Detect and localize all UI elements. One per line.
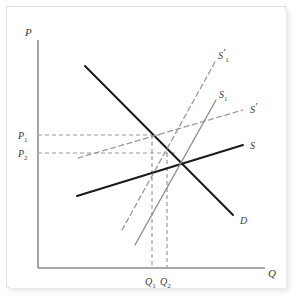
chart-labels-group: P1P2Q1Q2DSS′S1S′1	[17, 47, 258, 290]
curve-label-supply-prime-1: S′1	[218, 47, 229, 64]
x-axis-label: Q	[268, 267, 276, 279]
curve-supply-1	[135, 100, 216, 245]
curve-demand	[85, 66, 233, 215]
quantity-label-q1: Q1	[145, 276, 156, 290]
figure-root: P Q P1P2Q1Q2DSS′S1S′1	[0, 0, 296, 302]
price-label-p2: P2	[17, 148, 28, 162]
price-label-p1: P1	[17, 130, 28, 144]
guide-lines-group	[38, 135, 175, 268]
curve-label-supply: S	[250, 140, 255, 151]
curve-supply-prime	[78, 110, 243, 158]
curve-label-supply-1: S1	[219, 89, 228, 103]
supply-demand-chart: P Q P1P2Q1Q2DSS′S1S′1	[0, 0, 296, 302]
y-axis-label: P	[24, 26, 32, 38]
curve-supply-prime-1	[122, 62, 215, 230]
curve-label-supply-prime: S′	[250, 101, 258, 115]
quantity-label-q2: Q2	[160, 276, 171, 290]
curve-label-demand: D	[239, 215, 248, 226]
